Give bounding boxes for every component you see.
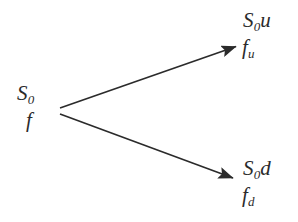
down-node-option-label: fd [242, 185, 255, 206]
up-price-subscript: 0 [254, 19, 261, 34]
down-price-subscript: 0 [254, 167, 261, 182]
up-price-suffix: u [260, 8, 271, 32]
initial-node-option-label: f [26, 110, 32, 131]
up-node-option-label: fu [242, 37, 255, 58]
down-price-symbol: S [243, 156, 254, 180]
initial-price-subscript: 0 [28, 92, 35, 107]
up-node-price-label: S0u [243, 10, 271, 31]
initial-option-symbol: f [26, 108, 32, 132]
initial-node-price-label: S0 [17, 83, 34, 104]
down-branch-arrow [60, 114, 233, 178]
initial-price-symbol: S [17, 81, 28, 105]
down-option-subscript: d [248, 194, 255, 209]
up-branch-arrow [60, 47, 236, 109]
up-option-subscript: u [248, 46, 255, 61]
up-price-symbol: S [243, 8, 254, 32]
down-price-suffix: d [260, 156, 271, 180]
binomial-tree-figure: S0 f S0u fu S0d fd [0, 0, 298, 222]
down-node-price-label: S0d [243, 158, 271, 179]
